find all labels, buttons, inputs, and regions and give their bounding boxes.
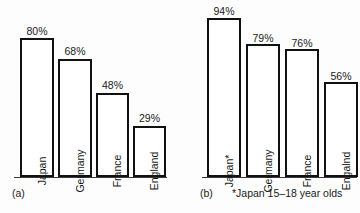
footnote-japan-age-range: *Japan 15–18 year olds xyxy=(232,188,342,199)
bar-b-2: France xyxy=(285,49,319,177)
bar-b-3: Engalnd xyxy=(324,82,358,177)
bar-b-0: Japan* xyxy=(207,18,241,177)
bar-a-0: Japan xyxy=(20,38,54,177)
plot-area-b: 94% Japan* 79% Germany 76% France xyxy=(180,0,360,213)
bar-value-a-3: 29% xyxy=(133,113,166,124)
figure-two-bar-charts: 80% Japan 68% Germany 48% France xyxy=(0,0,360,213)
panel-tag-b: (b) xyxy=(200,188,213,199)
plot-area-a: 80% Japan 68% Germany 48% France xyxy=(0,0,180,213)
bar-value-b-0: 94% xyxy=(207,6,241,17)
chart-panel-a: 80% Japan 68% Germany 48% France xyxy=(0,0,180,213)
bar-value-b-2: 76% xyxy=(285,38,319,49)
bar-a-2: France xyxy=(96,93,129,177)
bar-value-a-1: 68% xyxy=(58,46,92,57)
bar-a-1: Germany xyxy=(58,59,92,177)
bar-value-b-1: 79% xyxy=(246,33,280,44)
bar-value-a-0: 80% xyxy=(20,26,54,37)
bar-a-3: England xyxy=(133,126,166,177)
chart-panel-b: 94% Japan* 79% Germany 76% France xyxy=(180,0,360,213)
panel-tag-a: (a) xyxy=(12,188,25,199)
bar-value-a-2: 48% xyxy=(96,80,129,91)
bar-b-1: Germany xyxy=(246,44,280,177)
bar-value-b-3: 56% xyxy=(324,71,358,82)
